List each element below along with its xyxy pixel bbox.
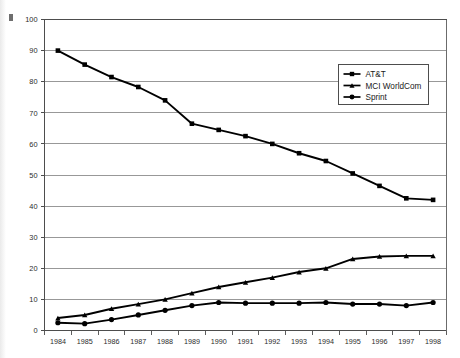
y-axis-tick-label: 30: [29, 233, 37, 242]
series-sprint: [55, 300, 435, 326]
y-axis-tick-label: 90: [29, 46, 37, 55]
x-axis-tick-label: 1993: [291, 337, 307, 346]
x-axis-tick-label: 1994: [318, 337, 334, 346]
chart-canvas: 0102030405060708090100 19841985198619871…: [0, 0, 460, 358]
x-axis-tick-label: 1984: [50, 337, 66, 346]
x-axis-tick-label: 1992: [264, 337, 280, 346]
y-axis-tick-label: 80: [29, 77, 37, 86]
x-axis-tick-label: 1990: [211, 337, 227, 346]
y-axis-tick-label: 60: [29, 140, 37, 149]
y-axis-tick-label: 40: [29, 202, 37, 211]
line-chart: 0102030405060708090100 19841985198619871…: [0, 0, 460, 358]
x-axis-tick-label: 1988: [157, 337, 173, 346]
y-axis-tick-label: 10: [29, 295, 37, 304]
x-axis-tick-label: 1995: [345, 337, 361, 346]
legend-label: MCI WorldCom: [366, 82, 422, 91]
x-axis-ticks: 1984198519861987198819891990199119921993…: [45, 331, 447, 347]
legend-label: Sprint: [366, 93, 388, 102]
x-axis-tick-label: 1991: [238, 337, 254, 346]
y-axis-tick-label: 0: [33, 326, 37, 335]
y-axis-tick-label: 20: [29, 264, 37, 273]
scan-edge-artifact: [0, 0, 6, 358]
y-axis-tick-label: 50: [29, 171, 37, 180]
x-axis-tick-label: 1987: [130, 337, 146, 346]
x-axis-tick-label: 1985: [77, 337, 93, 346]
x-axis-tick-label: 1996: [372, 337, 388, 346]
y-axis-tick-label: 100: [25, 15, 37, 24]
x-axis-tick-label: 1997: [398, 337, 414, 346]
series-mci-worldcom: [55, 253, 436, 320]
y-axis-tick-label: 70: [29, 109, 37, 118]
square-marker-icon: [350, 72, 354, 76]
scan-speck-artifact: [9, 14, 13, 21]
circle-marker-icon: [350, 95, 355, 100]
y-axis-ticks: 0102030405060708090100: [25, 15, 44, 335]
legend-label: AT&T: [366, 70, 386, 79]
x-axis-tick-label: 1986: [104, 337, 120, 346]
chart-legend: AT&TMCI WorldComSprint: [339, 65, 429, 105]
x-axis-tick-label: 1998: [425, 337, 441, 346]
x-axis-tick-label: 1989: [184, 337, 200, 346]
